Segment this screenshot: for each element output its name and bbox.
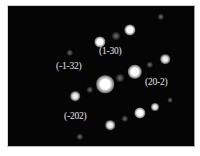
diffraction-spot: [122, 116, 128, 122]
diffraction-spot: [105, 120, 115, 130]
label-neg202: (-202): [64, 111, 87, 121]
diffraction-spot: [147, 62, 153, 68]
diffraction-spot: [116, 74, 124, 82]
diffraction-spot: [87, 87, 93, 93]
diffraction-spot: [151, 103, 159, 111]
diffraction-spot: [67, 50, 73, 56]
diffraction-spot: [158, 14, 164, 20]
diffraction-spot: [96, 75, 114, 93]
diffraction-pattern-image: (1-30) (-1-32) (20-2) (-202): [7, 5, 195, 147]
diffraction-spot: [124, 24, 135, 35]
diffraction-spot: [112, 32, 120, 40]
diffraction-spot: [128, 65, 142, 79]
label-20-2: (20-2): [145, 77, 168, 87]
label-1-30: (1-30): [99, 46, 122, 56]
diffraction-spot: [70, 91, 80, 101]
diffraction-spot: [160, 54, 170, 64]
diffraction-spot: [134, 107, 145, 118]
label-neg1-neg1-32: (-1-32): [56, 61, 82, 71]
diffraction-spot: [168, 98, 173, 103]
diffraction-spot: [77, 134, 83, 140]
